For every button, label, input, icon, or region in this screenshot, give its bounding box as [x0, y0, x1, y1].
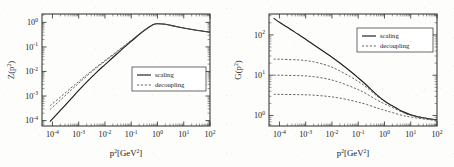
svg-text:10-1: 10-1	[25, 41, 38, 51]
left-plot-svg: 10-410-310-210-1100101102 10010-110-210-…	[0, 0, 227, 167]
svg-text:102: 102	[254, 29, 265, 39]
svg-text:101: 101	[254, 69, 265, 79]
svg-text:10-2: 10-2	[25, 66, 38, 76]
legend-label-scaling-left: scaling	[155, 71, 174, 78]
left-plot-y-tick-labels: 10010-110-210-310-4	[25, 17, 38, 126]
svg-text:10-4: 10-4	[273, 129, 286, 139]
right-plot-y-axis-label: G(p2)	[233, 60, 243, 79]
figure-two-panel-log-log-plots: 10-410-310-210-1100101102 10010-110-210-…	[0, 0, 454, 167]
svg-text:102: 102	[205, 129, 216, 139]
curve-decoupling-2	[50, 24, 210, 106]
svg-text:p2[GeV2]: p2[GeV2]	[110, 148, 143, 158]
left-plot-legend: scaling decoupling	[132, 67, 206, 91]
left-plot-x-tick-labels: 10-410-310-210-1100101102	[46, 129, 216, 139]
svg-text:10-3: 10-3	[25, 90, 38, 100]
curve-decoupling-high	[274, 59, 437, 120]
svg-text:10-2: 10-2	[326, 129, 339, 139]
svg-text:10-3: 10-3	[299, 129, 312, 139]
svg-text:G(p2): G(p2)	[233, 60, 243, 79]
curve-decoupling-low	[274, 94, 437, 120]
svg-text:10-4: 10-4	[25, 115, 38, 125]
svg-text:100: 100	[27, 17, 38, 27]
right-plot-svg: 10-410-310-210-1100101102 102101100 p2[G…	[227, 0, 454, 167]
svg-text:10-4: 10-4	[46, 129, 59, 139]
right-plot-x-axis-label: p2[GeV2]	[337, 148, 370, 158]
panel-right-ghost-dressing: 10-410-310-210-1100101102 102101100 p2[G…	[227, 0, 454, 167]
svg-text:100: 100	[254, 110, 265, 120]
svg-text:10-1: 10-1	[125, 129, 138, 139]
right-plot-x-tick-labels: 10-410-310-210-1100101102	[273, 129, 443, 139]
svg-text:102: 102	[432, 129, 443, 139]
left-plot-x-axis-label: p2[GeV2]	[110, 148, 143, 158]
svg-text:10-2: 10-2	[99, 129, 112, 139]
right-plot-y-tick-labels: 102101100	[254, 29, 265, 120]
svg-text:100: 100	[379, 129, 390, 139]
svg-text:101: 101	[178, 129, 189, 139]
legend-label-decoupling-left: decoupling	[155, 81, 185, 88]
svg-text:Z(p2): Z(p2)	[6, 61, 16, 80]
curve-decoupling-mid	[274, 75, 437, 120]
panel-left-gluon-dressing: 10-410-310-210-1100101102 10010-110-210-…	[0, 0, 227, 167]
legend-label-decoupling-right: decoupling	[380, 42, 410, 49]
svg-text:101: 101	[405, 129, 416, 139]
svg-text:p2[GeV2]: p2[GeV2]	[337, 148, 370, 158]
svg-text:100: 100	[152, 129, 163, 139]
left-plot-y-axis-label: Z(p2)	[6, 61, 16, 80]
right-plot-legend: scaling decoupling	[357, 28, 433, 52]
legend-label-scaling-right: scaling	[380, 32, 399, 39]
svg-text:10-3: 10-3	[72, 129, 85, 139]
svg-text:10-1: 10-1	[352, 129, 365, 139]
